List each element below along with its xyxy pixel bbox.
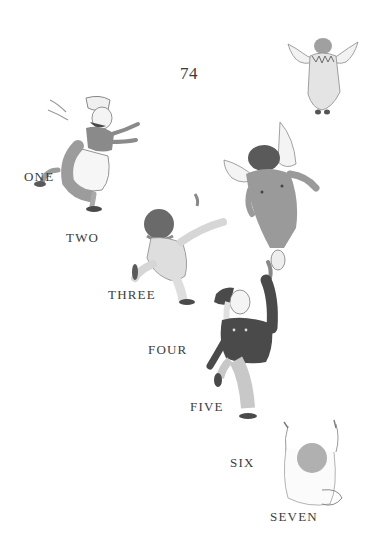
label-five: FIVE <box>190 399 224 415</box>
label-one: ONE <box>24 169 54 185</box>
baby-arms-raised-illustration <box>278 418 348 510</box>
book-page: 74 <box>0 0 379 551</box>
winged-child-in-overalls-illustration <box>220 108 335 273</box>
label-four: FOUR <box>148 342 187 358</box>
baby-icon <box>278 418 348 510</box>
label-seven: SEVEN <box>270 509 318 525</box>
page-number: 74 <box>180 64 198 84</box>
winged-child-icon <box>282 22 364 117</box>
label-three: THREE <box>108 287 156 303</box>
winged-child-in-gown-illustration <box>282 22 364 117</box>
label-two: TWO <box>66 230 99 246</box>
label-six: SIX <box>230 455 255 471</box>
winged-boy-icon <box>220 108 335 273</box>
